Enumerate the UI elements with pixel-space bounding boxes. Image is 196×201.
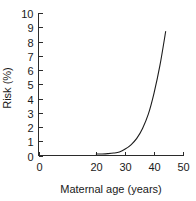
y-tick-label: 3: [27, 108, 33, 120]
y-tick-label: 4: [27, 94, 33, 106]
y-tick-label: 5: [27, 79, 33, 91]
y-tick-label: 7: [27, 51, 33, 63]
x-tick-label: 20: [90, 161, 102, 173]
y-axis-title: Risk (%): [1, 67, 13, 109]
risk-vs-maternal-age-chart: 109876543210 020304050 Maternal age (yea…: [0, 0, 196, 201]
x-tick-label: 0: [36, 161, 42, 173]
y-tick-label: 9: [27, 22, 33, 34]
y-tick-label: 8: [27, 37, 33, 49]
y-tick-label: 6: [27, 65, 33, 77]
y-tick-label: 1: [27, 136, 33, 148]
x-tick-label: 30: [119, 161, 131, 173]
y-tick-label: 10: [21, 8, 33, 20]
x-tick-label: 40: [148, 161, 160, 173]
chart-figure: 109876543210 020304050 Maternal age (yea…: [0, 0, 196, 201]
y-tick-label: 2: [27, 122, 33, 134]
x-axis-title: Maternal age (years): [60, 183, 162, 195]
x-tick-label: 50: [177, 161, 189, 173]
y-tick-label: 0: [27, 151, 33, 163]
